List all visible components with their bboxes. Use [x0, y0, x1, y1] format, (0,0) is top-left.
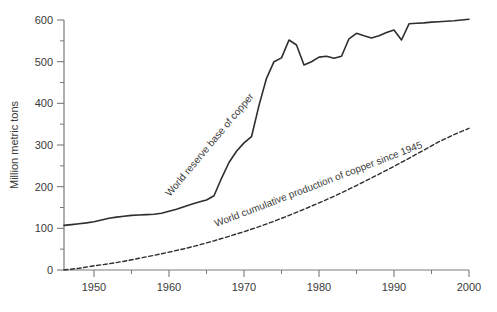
- chart-generated-layer: 0100200300400500600195019601970198019902…: [35, 14, 482, 293]
- y-tick-label: 100: [35, 222, 53, 234]
- y-axis-title: Million metric tons: [8, 100, 20, 189]
- chart-svg: 0100200300400500600195019601970198019902…: [0, 0, 497, 312]
- x-tick-label: 2000: [457, 281, 481, 293]
- y-tick-label: 400: [35, 97, 53, 109]
- copper-reserves-production-chart: 0100200300400500600195019601970198019902…: [0, 0, 497, 312]
- reserve-base-curve: [64, 19, 469, 225]
- series-label-cumulative-production: World cumulative production of copper si…: [213, 139, 424, 229]
- x-tick-label: 1960: [157, 281, 181, 293]
- x-tick-label: 1950: [82, 281, 106, 293]
- y-tick-label: 0: [47, 264, 53, 276]
- x-tick-label: 1990: [382, 281, 406, 293]
- y-tick-label: 600: [35, 14, 53, 26]
- y-tick-label: 200: [35, 181, 53, 193]
- x-tick-label: 1980: [307, 281, 331, 293]
- y-tick-label: 500: [35, 56, 53, 68]
- y-tick-label: 300: [35, 139, 53, 151]
- x-tick-label: 1970: [232, 281, 256, 293]
